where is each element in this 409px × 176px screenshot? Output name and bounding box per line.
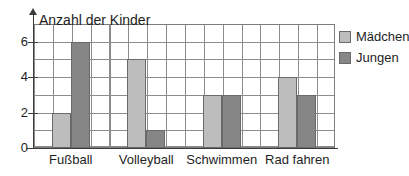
bar-maedchen [278,77,297,148]
y-axis-labels: 6420 [0,0,28,176]
y-axis-tick-label: 6 [4,35,28,48]
x-axis-label: Rad fahren [247,151,347,169]
legend: Mädchen Jungen [339,28,409,70]
bar-maedchen [203,95,222,148]
legend-item-jungen: Jungen [339,49,409,67]
y-axis-tick-label: 4 [4,70,28,83]
bar-maedchen [52,113,71,148]
legend-swatch-maedchen-icon [339,31,351,43]
chart-title: Anzahl der Kinder [39,12,150,28]
legend-label-jungen: Jungen [356,51,399,65]
y-axis-tick-label: 2 [4,106,28,119]
y-axis-arrow-icon [29,8,37,15]
bar-jungen [146,130,165,148]
bar-jungen [297,95,316,148]
legend-swatch-jungen-icon [339,52,351,64]
legend-label-maedchen: Mädchen [356,30,409,44]
bar-group [33,24,335,148]
bar-maedchen [127,59,146,148]
x-axis-category-labels: FußballVolleyballSchwimmenRad fahren [0,151,407,173]
bar-jungen [222,95,241,148]
bar-jungen [71,42,90,148]
legend-item-maedchen: Mädchen [339,28,409,46]
x-axis-line [26,148,338,149]
